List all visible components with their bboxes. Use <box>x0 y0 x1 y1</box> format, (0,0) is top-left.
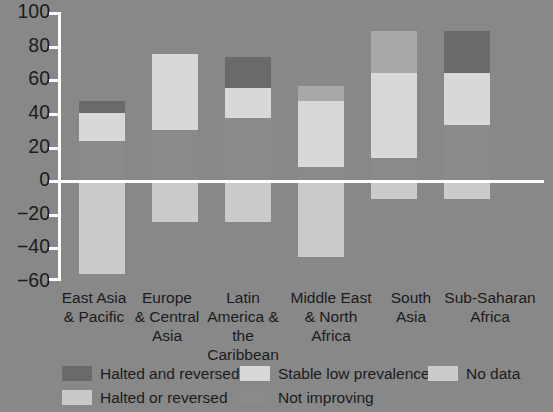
bar-segment-not-improving <box>444 125 490 180</box>
y-axis-tick-neg20 <box>49 214 58 217</box>
ytick-label-20: 20 <box>0 137 50 157</box>
bar-segment-halted-and-reversed <box>444 31 490 73</box>
ytick-label-0: 0 <box>0 170 50 190</box>
legend-swatch-halted-and-reversed <box>62 366 92 381</box>
bar-group-europe-central-asia[interactable] <box>152 12 198 281</box>
y-axis-tick-20 <box>49 147 58 150</box>
legend-item-halted-and-reversed[interactable]: Halted and reversed <box>62 363 240 384</box>
legend-label-halted-and-reversed: Halted and reversed <box>100 365 240 382</box>
ytick-label-100: 100 <box>0 2 50 22</box>
y-axis-tick-neg40 <box>49 247 58 250</box>
plot-area <box>58 12 544 281</box>
ytick-label-60: 60 <box>0 69 50 89</box>
bar-segment-not-improving <box>371 158 417 180</box>
legend-item-halted-or-reversed[interactable]: Halted or reversed <box>62 387 228 408</box>
legend-swatch-not-improving <box>240 390 270 405</box>
category-label-middle-east-north-africa: Middle East & North Africa <box>288 288 374 345</box>
bar-segment-not-improving <box>298 167 344 180</box>
legend-label-stable-low-prevalence: Stable low prevalence <box>278 365 430 382</box>
legend-swatch-stable-low-prevalence <box>240 366 270 381</box>
bar-segment-no-data <box>152 180 198 222</box>
legend-label-no-data: No data <box>466 365 520 382</box>
bar-segment-not-improving <box>152 130 198 180</box>
bar-group-east-asia-pacific[interactable] <box>79 12 125 281</box>
ytick-label-neg40: −40 <box>0 237 50 257</box>
y-axis-tick-0 <box>49 180 58 183</box>
bar-segment-halted-or-reversed <box>298 86 344 101</box>
legend-item-no-data[interactable]: No data <box>428 363 520 384</box>
y-axis-spine <box>58 12 61 281</box>
bar-segment-stable-low-prevalence <box>225 88 271 118</box>
y-axis-tick-neg60 <box>49 278 58 281</box>
ytick-label-40: 40 <box>0 103 50 123</box>
bar-group-latin-america-caribbean[interactable] <box>225 12 271 281</box>
ytick-label-neg60: −60 <box>0 271 50 291</box>
bar-segment-stable-low-prevalence <box>79 113 125 142</box>
bar-segment-stable-low-prevalence <box>371 73 417 159</box>
bar-segment-stable-low-prevalence <box>444 73 490 125</box>
bar-segment-halted-or-reversed <box>371 31 417 73</box>
bar-segment-not-improving <box>79 141 125 180</box>
bar-segment-no-data <box>298 180 344 257</box>
y-axis-tick-40 <box>49 113 58 116</box>
legend-label-halted-or-reversed: Halted or reversed <box>100 389 228 406</box>
category-label-south-asia: South Asia <box>374 288 448 326</box>
legend-item-stable-low-prevalence[interactable]: Stable low prevalence <box>240 363 430 384</box>
category-label-europe-central-asia: Europe & Central Asia <box>129 288 205 345</box>
category-label-latin-america-caribbean: Latin America & the Caribbean <box>197 288 289 364</box>
chart-legend: Halted and reversed Stable low prevalenc… <box>0 363 553 412</box>
bar-segment-halted-and-reversed <box>79 101 125 113</box>
bar-segment-no-data <box>79 180 125 274</box>
legend-swatch-halted-or-reversed <box>62 390 92 405</box>
bar-segment-stable-low-prevalence <box>152 54 198 130</box>
y-axis-tick-80 <box>49 46 58 49</box>
bar-segment-stable-low-prevalence <box>298 101 344 167</box>
bar-segment-no-data <box>225 180 271 222</box>
y-axis-tick-60 <box>49 79 58 82</box>
legend-item-not-improving[interactable]: Not improving <box>240 387 374 408</box>
ytick-label-neg20: −20 <box>0 204 50 224</box>
bar-segment-halted-and-reversed <box>225 57 271 87</box>
bar-group-sub-saharan-africa[interactable] <box>444 12 490 281</box>
bar-segment-not-improving <box>225 118 271 180</box>
category-label-east-asia-pacific: East Asia & Pacific <box>56 288 132 326</box>
ytick-label-80: 80 <box>0 36 50 56</box>
y-axis-tick-100 <box>49 12 58 15</box>
legend-swatch-no-data <box>428 366 458 381</box>
bar-group-middle-east-north-africa[interactable] <box>298 12 344 281</box>
category-label-sub-saharan-africa: Sub-Saharan Africa <box>442 288 538 326</box>
chart-root: 100 80 60 40 20 0 −20 −40 −60 <box>0 0 553 412</box>
legend-label-not-improving: Not improving <box>278 389 374 406</box>
zero-baseline <box>58 180 544 183</box>
bar-group-south-asia[interactable] <box>371 12 417 281</box>
